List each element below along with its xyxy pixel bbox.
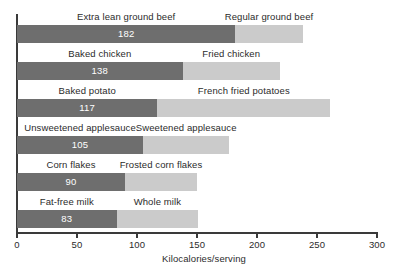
y-axis-line [16,14,18,233]
x-tick-label-200: 200 [249,239,265,250]
bar-segment-higher-calorie [143,136,229,154]
x-tick-label-250: 250 [309,239,325,250]
x-tick-150 [196,233,198,238]
x-tick-50 [76,233,78,238]
bar-value-label: 83 [17,210,117,228]
bar-segment-higher-calorie [235,25,302,43]
x-tick-0 [16,233,18,238]
category-label-lower-calorie: Baked potato [59,85,116,96]
category-label-higher-calorie: French fried potatoes [198,85,290,96]
x-tick-label-150: 150 [189,239,205,250]
bar-row: 90 [17,173,197,191]
x-tick-label-300: 300 [369,239,385,250]
bar-row: 138 [17,62,280,80]
category-label-lower-calorie: Corn flakes [46,159,95,170]
bar-value-label: 117 [17,99,157,117]
bar-segment-higher-calorie [117,210,199,228]
category-label-higher-calorie: Whole milk [134,196,181,207]
x-axis-title: Kilocalories/serving [0,253,408,264]
bar-row: 182 [17,25,303,43]
x-tick-300 [376,233,378,238]
category-label-higher-calorie: Fried chicken [202,48,260,59]
x-tick-250 [316,233,318,238]
category-label-higher-calorie: Regular ground beef [225,11,314,22]
category-label-lower-calorie: Fat-free milk [40,196,94,207]
bar-value-label: 105 [17,136,143,154]
bar-row: 83 [17,210,198,228]
bar-chart: 050100150200250300 1821381171059083 Extr… [0,0,408,273]
category-label-lower-calorie: Unsweetened applesauce [24,122,136,133]
bar-value-label: 182 [17,25,235,43]
bar-segment-higher-calorie [125,173,197,191]
x-tick-100 [136,233,138,238]
x-tick-label-50: 50 [72,239,83,250]
bar-segment-higher-calorie [183,62,280,80]
bar-value-label: 138 [17,62,183,80]
category-label-lower-calorie: Baked chicken [68,48,131,59]
category-label-higher-calorie: Sweetened applesauce [136,122,237,133]
bar-value-label: 90 [17,173,125,191]
bar-row: 105 [17,136,229,154]
bar-segment-higher-calorie [157,99,330,117]
bar-row: 117 [17,99,330,117]
x-tick-200 [256,233,258,238]
category-label-higher-calorie: Frosted corn flakes [120,159,203,170]
category-label-lower-calorie: Extra lean ground beef [77,11,175,22]
x-tick-label-100: 100 [129,239,145,250]
x-tick-label-0: 0 [14,239,19,250]
